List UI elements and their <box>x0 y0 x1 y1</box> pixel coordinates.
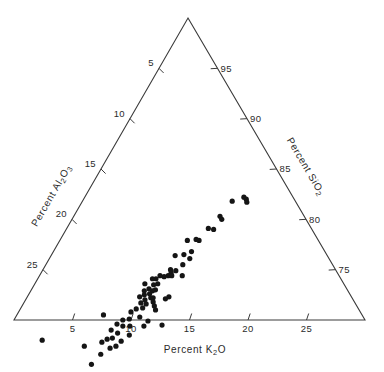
data-point <box>89 362 94 367</box>
axis-tick-mark <box>307 314 309 321</box>
data-point <box>109 327 114 332</box>
data-point <box>99 340 104 345</box>
axis-tick-mark <box>43 270 48 275</box>
data-point <box>127 316 132 321</box>
data-point <box>187 256 192 261</box>
data-point <box>142 292 147 297</box>
data-point <box>173 253 178 258</box>
data-point <box>98 352 103 357</box>
data-point <box>166 294 171 299</box>
data-point <box>180 273 185 278</box>
axis-tick-label: 15 <box>184 323 195 334</box>
data-point <box>120 317 125 322</box>
ternary-plot-canvas: 510152025 510152025 9590858075 Percent K… <box>0 0 384 372</box>
data-point <box>114 321 119 326</box>
data-point <box>144 301 149 306</box>
axis-tick-label: 95 <box>221 63 232 74</box>
axis-tick-mark <box>73 314 75 321</box>
data-point <box>173 268 178 273</box>
data-point <box>113 344 118 349</box>
data-point <box>137 314 142 319</box>
data-point <box>105 337 110 342</box>
data-point <box>142 281 147 286</box>
data-point <box>115 330 120 335</box>
data-point <box>185 238 190 243</box>
data-point <box>211 227 216 232</box>
axis-tick-label: 15 <box>85 158 96 169</box>
data-point <box>244 200 249 205</box>
data-point <box>110 336 115 341</box>
axis-tick-mark <box>101 169 106 174</box>
axis-tick-label: 80 <box>309 214 320 225</box>
data-point <box>151 282 156 287</box>
ternary-diagram-figure: 510152025 510152025 9590858075 Percent K… <box>0 0 384 372</box>
data-point <box>120 323 125 328</box>
data-point <box>180 262 185 267</box>
data-point <box>230 199 235 204</box>
data-point <box>159 322 164 327</box>
axis-tick-mark <box>159 68 164 73</box>
axis-tick-label: 20 <box>242 323 253 334</box>
data-point <box>140 305 145 310</box>
axis-tick-label: 25 <box>27 259 38 270</box>
data-point <box>128 309 133 314</box>
axis-tick-label: 75 <box>339 264 350 275</box>
data-point <box>146 286 151 291</box>
axis-tick-label: 10 <box>114 108 125 119</box>
data-point <box>150 276 155 281</box>
bottom-axis-ticks: 510152025 <box>70 314 313 335</box>
data-point <box>141 323 146 328</box>
axis-tick-label: 5 <box>148 57 154 68</box>
axis-tick-mark <box>190 314 192 321</box>
data-point <box>82 344 87 349</box>
data-point <box>101 312 106 317</box>
left-axis-title: Percent Al2O3 <box>29 163 75 230</box>
axis-tick-label: 20 <box>56 208 67 219</box>
axis-tick-mark <box>248 314 250 321</box>
data-point <box>219 217 224 222</box>
axis-tick-label: 25 <box>301 323 312 334</box>
data-point <box>189 249 194 254</box>
axis-tick-label: 90 <box>250 113 261 124</box>
axis-tick-mark <box>72 219 77 224</box>
axis-tick-label: 5 <box>70 323 76 334</box>
data-point <box>137 294 142 299</box>
data-point <box>127 323 132 328</box>
data-point <box>127 333 132 338</box>
data-point <box>40 338 45 343</box>
axis-tick-label: 85 <box>280 163 291 174</box>
data-point <box>107 346 112 351</box>
bottom-axis-title: Percent K2O <box>164 344 226 357</box>
right-axis-ticks: 9590858075 <box>211 63 350 275</box>
data-point <box>138 300 143 305</box>
data-point <box>206 226 211 231</box>
axis-tick-mark <box>130 119 135 124</box>
data-point <box>119 339 124 344</box>
data-point <box>145 318 150 323</box>
data-point <box>134 306 139 311</box>
data-point <box>153 307 158 312</box>
data-point <box>181 252 186 257</box>
left-axis-ticks: 510152025 <box>27 57 164 274</box>
data-point <box>196 238 201 243</box>
